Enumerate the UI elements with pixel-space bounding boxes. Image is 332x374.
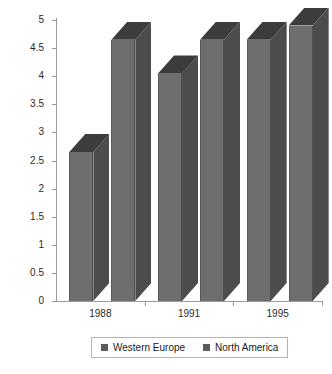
y-axis-tick-label: 4	[0, 71, 44, 81]
bar-side-face	[224, 22, 240, 301]
y-axis-tick-mark	[52, 245, 57, 246]
y-axis-tick-mark	[52, 189, 57, 190]
legend-swatch-icon	[101, 344, 108, 351]
y-axis-tick-label: 3	[0, 127, 44, 137]
x-axis-tick-mark	[145, 301, 146, 306]
bar-side-face	[271, 22, 287, 301]
bar-front-face	[289, 26, 313, 301]
chart-root: 54.543.532.521.510.50 198819911995 Weste…	[0, 0, 332, 374]
bar-front-face	[158, 73, 182, 301]
bar-side-face	[182, 55, 198, 301]
y-axis-tick-mark	[52, 217, 57, 218]
bar-front-face	[69, 152, 93, 301]
legend-item: North America	[203, 342, 278, 353]
y-axis-tick-label: 0.5	[0, 268, 44, 278]
y-axis-tick-label: 2.5	[0, 156, 44, 166]
plot-area: 54.543.532.521.510.50 198819911995	[0, 0, 332, 312]
y-axis-tick-label: 1	[0, 240, 44, 250]
legend-item-label: North America	[215, 342, 278, 353]
y-axis-tick-label: 4.5	[0, 43, 44, 53]
y-axis-tick-mark	[52, 48, 57, 49]
bar-side-face	[135, 22, 151, 301]
x-axis-tick-label: 1988	[57, 308, 143, 319]
legend-item-label: Western Europe	[113, 342, 185, 353]
x-axis-tick-label: 1991	[146, 308, 232, 319]
bar-front-face	[200, 40, 224, 301]
y-axis-tick-mark	[52, 76, 57, 77]
bar-north-america-1991	[200, 22, 240, 301]
y-axis-tick-mark	[52, 273, 57, 274]
y-axis-tick-label: 0	[0, 296, 44, 306]
y-axis-tick-label: 2	[0, 184, 44, 194]
bar-western-europe-1988	[69, 134, 109, 301]
y-axis-tick-mark	[52, 20, 57, 21]
y-axis-tick-mark	[52, 161, 57, 162]
bar-western-europe-1991	[158, 55, 198, 301]
y-axis-tick-label: 1.5	[0, 212, 44, 222]
bar-side-face	[313, 8, 329, 301]
bar-front-face	[247, 40, 271, 301]
y-axis-tick-label: 5	[0, 15, 44, 25]
legend-swatch-icon	[203, 344, 210, 351]
y-axis-tick-mark	[52, 132, 57, 133]
x-axis-tick-mark	[322, 301, 323, 306]
legend-item: Western Europe	[101, 342, 185, 353]
y-axis-tick-label: 3.5	[0, 99, 44, 109]
x-axis-tick-mark	[233, 301, 234, 306]
bar-side-face	[93, 134, 109, 301]
bar-north-america-1988	[111, 22, 151, 301]
x-axis-line	[56, 301, 322, 302]
x-axis-tick-label: 1995	[235, 308, 321, 319]
y-axis-tick-mark	[52, 104, 57, 105]
chart-legend: Western EuropeNorth America	[91, 337, 288, 358]
bar-western-europe-1995	[247, 22, 287, 301]
bar-north-america-1995	[289, 8, 329, 301]
bar-front-face	[111, 40, 135, 301]
